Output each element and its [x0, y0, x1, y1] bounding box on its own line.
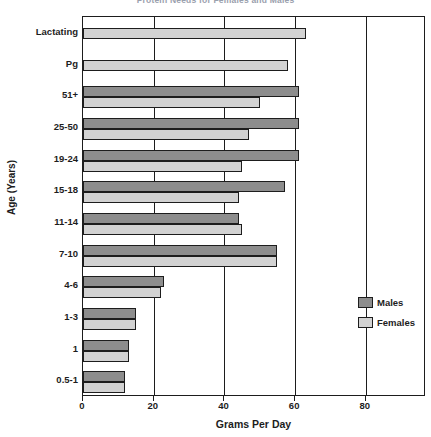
x-axis-tick-labels: 020406080: [82, 396, 425, 410]
bar-males-1: [83, 340, 129, 351]
gridline-80: [366, 17, 367, 395]
legend-label-females: Females: [377, 317, 415, 328]
bar-females-Lactating: [83, 28, 306, 39]
bar-males-19-24: [83, 150, 299, 161]
y-tick-0.5-1: 0.5-1: [2, 375, 78, 385]
bar-females-0.5-1: [83, 382, 125, 393]
x-tick-label-80: 80: [345, 400, 385, 411]
y-tick-51+: 51+: [2, 90, 78, 100]
y-tick-1-3: 1-3: [2, 312, 78, 322]
bar-females-51+: [83, 97, 260, 108]
legend-swatch-females: [358, 317, 373, 328]
bar-females-25-50: [83, 129, 249, 140]
protein-needs-bar-chart: Protein Needs for Females and Males 0.5-…: [0, 0, 431, 437]
gridline-60: [295, 17, 296, 395]
bar-females-11-14: [83, 224, 242, 235]
plot-area: [82, 16, 425, 396]
bar-females-4-6: [83, 287, 161, 298]
legend-entry-females: Females: [358, 317, 422, 328]
x-tick-label-20: 20: [133, 400, 173, 411]
bar-females-15-18: [83, 192, 239, 203]
bar-males-25-50: [83, 118, 299, 129]
bar-males-15-18: [83, 181, 285, 192]
gridline-40: [224, 17, 225, 395]
bar-males-0.5-1: [83, 371, 125, 382]
y-axis-title: Age (Years): [6, 118, 17, 258]
chart-legend: MalesFemales: [358, 297, 422, 337]
bar-males-1-3: [83, 308, 136, 319]
x-tick-label-0: 0: [62, 400, 102, 411]
chart-title: Protein Needs for Females and Males: [0, 0, 431, 5]
bar-males-11-14: [83, 213, 239, 224]
x-axis-title: Grams Per Day: [82, 418, 425, 430]
y-tick-Pg: Pg: [2, 59, 78, 69]
y-tick-4-6: 4-6: [2, 280, 78, 290]
bar-males-4-6: [83, 276, 164, 287]
bar-females-1-3: [83, 319, 136, 330]
bar-females-7-10: [83, 256, 277, 267]
bar-females-Pg: [83, 60, 288, 71]
bar-males-7-10: [83, 245, 277, 256]
x-tick-label-60: 60: [274, 400, 314, 411]
legend-label-males: Males: [377, 297, 403, 308]
x-tick-label-40: 40: [203, 400, 243, 411]
bar-females-1: [83, 351, 129, 362]
gridline-20: [154, 17, 155, 395]
bar-females-19-24: [83, 161, 242, 172]
y-tick-Lactating: Lactating: [2, 27, 78, 37]
bar-males-51+: [83, 86, 299, 97]
legend-swatch-males: [358, 297, 373, 308]
legend-entry-males: Males: [358, 297, 422, 308]
y-tick-1: 1: [2, 344, 78, 354]
